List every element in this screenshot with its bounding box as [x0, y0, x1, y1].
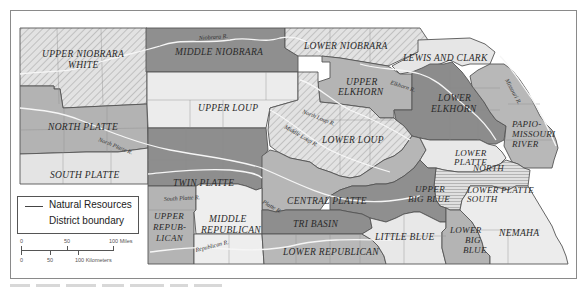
svg-text:ELKHORN: ELKHORN — [337, 87, 384, 97]
label-south-platte: SOUTH PLATTE — [50, 170, 120, 180]
svg-text:SOUTH: SOUTH — [467, 194, 498, 204]
label-middle-niobrara: MIDDLE NIOBRARA — [174, 47, 263, 57]
label-nemaha: NEMAHA — [498, 228, 539, 238]
svg-text:MISSOURI: MISSOURI — [511, 129, 556, 139]
label-north-platte: NORTH PLATTE — [47, 122, 118, 132]
label-upper-republican: UPPER — [154, 211, 184, 221]
label-papio-missouri-river: PAPIO- — [511, 119, 542, 129]
svg-text:BIG BLUE: BIG BLUE — [408, 194, 450, 204]
label-upper-elkhorn: UPPER — [346, 77, 378, 87]
scale-km-50: 50 — [47, 257, 53, 263]
label-lower-elkhorn: LOWER — [437, 93, 471, 103]
label-lower-republican: LOWER REPUBLICAN — [282, 247, 379, 257]
label-lower-loup: LOWER LOUP — [321, 135, 384, 145]
label-upper-niobrara-white: UPPER NIOBRARA — [42, 49, 124, 59]
label-little-blue: LITTLE BLUE — [374, 232, 435, 242]
scale-km-0: 0 — [20, 257, 23, 263]
label-lewis-and-clark: LEWIS AND CLARK — [402, 53, 488, 63]
scale-miles-100: 100 Miles — [109, 238, 133, 244]
legend-line2: District boundary — [49, 215, 124, 226]
svg-text:RIVER: RIVER — [511, 139, 539, 149]
svg-text:ELKHORN: ELKHORN — [430, 104, 477, 114]
svg-text:LICAN: LICAN — [155, 233, 184, 243]
scale-miles-0: 0 — [20, 238, 23, 244]
label-middle-republican: MIDDLE — [208, 214, 247, 224]
scale-km-100: 100 Kilometers — [75, 257, 112, 263]
svg-text:REPUBLICAN: REPUBLICAN — [200, 225, 261, 235]
svg-text:BIG: BIG — [465, 235, 481, 245]
boundary-line-swatch — [25, 206, 43, 207]
legend-line1: Natural Resources — [49, 199, 132, 210]
label-lower-niobrara: LOWER NIOBRARA — [303, 41, 388, 51]
svg-text:WHITE: WHITE — [68, 60, 99, 70]
label-tri-basin: TRI BASIN — [293, 219, 339, 229]
label-lower-big-blue: LOWER — [449, 225, 482, 235]
caption-faint — [10, 284, 310, 290]
svg-text:BLUE: BLUE — [463, 245, 487, 255]
legend: Natural Resources District boundary — [17, 196, 139, 234]
label-central-platte: CENTRAL PLATTE — [287, 196, 367, 206]
label-twin-platte: TWIN PLATTE — [173, 178, 234, 188]
svg-text:REPUB-: REPUB- — [152, 222, 186, 232]
svg-text:NORTH: NORTH — [472, 163, 504, 173]
label-upper-loup: UPPER LOUP — [198, 103, 258, 113]
label-upper-big-blue: UPPER — [415, 184, 445, 194]
scale-bar: 0 50 100 Miles 0 50 100 Kilometers — [17, 238, 142, 268]
scale-miles-50: 50 — [64, 238, 70, 244]
